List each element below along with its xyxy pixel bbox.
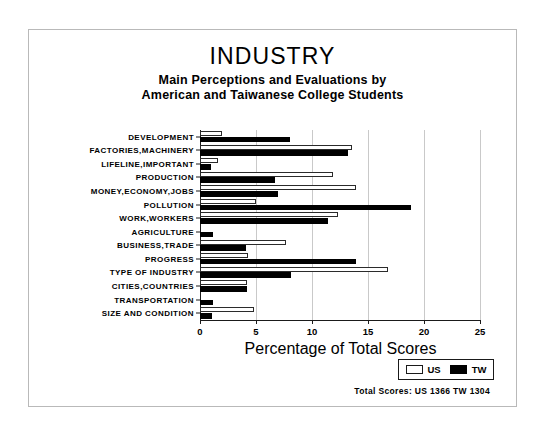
x-tick — [424, 320, 425, 324]
bar-tw — [200, 245, 246, 251]
x-axis-title-wrap: Percentage of Total Scores — [200, 340, 481, 358]
legend-swatch-tw-icon — [450, 365, 467, 374]
category-label: PROGRESS — [145, 254, 194, 263]
bar-tw — [200, 313, 212, 319]
bar-tw — [200, 218, 328, 224]
bar-us — [200, 185, 356, 190]
gridline-25 — [480, 130, 481, 320]
bar-tw — [200, 205, 411, 211]
bar-row: AGRICULTURE — [200, 225, 480, 239]
x-tick-label: 5 — [253, 326, 258, 337]
plot-area: DEVELOPMENTFACTORIES,MACHINERYLIFELINE,I… — [200, 130, 480, 320]
bar-tw — [200, 286, 247, 292]
x-tick-label: 10 — [307, 326, 318, 337]
x-axis-title: Percentage of Total Scores — [200, 340, 481, 358]
category-label: LIFELINE,IMPORTANT — [101, 159, 194, 168]
legend-label-tw: TW — [472, 364, 487, 375]
bar-rows: DEVELOPMENTFACTORIES,MACHINERYLIFELINE,I… — [200, 130, 480, 320]
bar-us — [200, 240, 286, 245]
x-tick — [480, 320, 481, 324]
bar-us — [200, 307, 254, 312]
legend-swatch-us-icon — [406, 365, 423, 374]
x-tick-label: 25 — [475, 326, 486, 337]
category-label: DEVELOPMENT — [128, 132, 194, 141]
bar-tw — [200, 150, 348, 156]
bar-tw — [200, 191, 278, 197]
legend-label-us: US — [428, 364, 441, 375]
page-title: INDUSTRY — [29, 43, 516, 69]
x-tick-label: 0 — [197, 326, 202, 337]
bar-tw — [200, 232, 213, 238]
bar-us — [200, 253, 248, 258]
bar-us — [200, 131, 222, 136]
bar-us — [200, 267, 388, 272]
bar-row: TYPE OF INDUSTRY — [200, 266, 480, 280]
category-label: AGRICULTURE — [131, 227, 194, 236]
chart-frame: INDUSTRY Main Perceptions and Evaluation… — [28, 29, 517, 407]
bar-tw — [200, 137, 290, 143]
x-tick — [312, 320, 313, 324]
bar-row: LIFELINE,IMPORTANT — [200, 157, 480, 171]
bar-tw — [200, 272, 291, 278]
bar-row: TRANSPORTATION — [200, 293, 480, 307]
bar-us — [200, 212, 338, 217]
category-label: WORK,WORKERS — [119, 214, 194, 223]
legend-item-us: US — [406, 364, 441, 375]
bar-us — [200, 199, 256, 204]
category-label: PRODUCTION — [136, 173, 194, 182]
bar-row: SIZE AND CONDITION — [200, 306, 480, 320]
title-block: INDUSTRY Main Perceptions and Evaluation… — [29, 43, 516, 103]
bar-us — [200, 145, 352, 150]
bar-us — [200, 280, 247, 285]
chart-subtitle-line-1: Main Perceptions and Evaluations by — [29, 73, 516, 88]
category-label: TRANSPORTATION — [114, 295, 194, 304]
category-label: CITIES,COUNTRIES — [112, 281, 194, 290]
category-label: MONEY,ECONOMY,JOBS — [91, 187, 194, 196]
bar-row: WORK,WORKERS — [200, 211, 480, 225]
bar-row: PROGRESS — [200, 252, 480, 266]
bar-row: MONEY,ECONOMY,JOBS — [200, 184, 480, 198]
bar-us — [200, 158, 218, 163]
bar-row: FACTORIES,MACHINERY — [200, 144, 480, 158]
bar-tw — [200, 177, 275, 183]
category-label: POLLUTION — [144, 200, 194, 209]
bar-row: PRODUCTION — [200, 171, 480, 185]
bar-tw — [200, 164, 211, 170]
bar-row: CITIES,COUNTRIES — [200, 279, 480, 293]
bar-tw — [200, 300, 213, 306]
legend: US TW — [398, 359, 494, 380]
category-label: FACTORIES,MACHINERY — [89, 146, 194, 155]
x-tick — [368, 320, 369, 324]
bar-row: POLLUTION — [200, 198, 480, 212]
bar-us — [200, 172, 333, 177]
x-tick — [256, 320, 257, 324]
x-axis-line — [200, 320, 481, 321]
chart-subtitle-line-2: American and Taiwanese College Students — [29, 88, 516, 103]
totals-footer: Total Scores: US 1366 TW 1304 — [29, 386, 490, 396]
category-label: SIZE AND CONDITION — [102, 309, 194, 318]
category-label: BUSINESS,TRADE — [117, 241, 194, 250]
x-tick-label: 20 — [419, 326, 430, 337]
category-label: TYPE OF INDUSTRY — [110, 268, 194, 277]
legend-item-tw: TW — [450, 364, 487, 375]
bar-row: BUSINESS,TRADE — [200, 239, 480, 253]
bar-row: DEVELOPMENT — [200, 130, 480, 144]
bar-tw — [200, 259, 356, 265]
x-tick — [200, 320, 201, 324]
x-tick-label: 15 — [363, 326, 374, 337]
